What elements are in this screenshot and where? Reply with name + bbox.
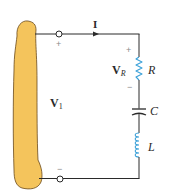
- resistor-voltage-main: V: [112, 63, 121, 77]
- resistor-voltage-label: VR: [112, 63, 126, 78]
- source-label-main: V: [50, 96, 59, 110]
- source-label: V1: [50, 96, 63, 111]
- source-blob: [13, 21, 42, 189]
- resistor-voltage-subscript: R: [120, 69, 126, 78]
- resistor-label: R: [147, 63, 156, 77]
- resistor-plus-sign: +: [126, 45, 131, 55]
- source-plus-sign: +: [56, 39, 61, 49]
- resistor-icon: [136, 57, 142, 80]
- current-label: I: [93, 18, 97, 30]
- inductor-label: L: [147, 140, 155, 154]
- capacitor-label: C: [150, 104, 159, 118]
- source-minus-sign: −: [57, 164, 62, 174]
- current-arrow-icon: [93, 32, 99, 37]
- source-label-subscript: 1: [59, 102, 63, 111]
- top-terminal: [56, 31, 62, 37]
- inductor-icon: [135, 133, 139, 157]
- circuit-diagram: I + − V1 + − VR R C L: [0, 0, 169, 196]
- resistor-minus-sign: −: [127, 82, 132, 92]
- bottom-terminal: [57, 176, 63, 182]
